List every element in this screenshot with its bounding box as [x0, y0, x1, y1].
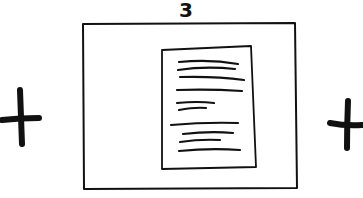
text-lines: [171, 61, 244, 151]
plus-icon[interactable]: [330, 101, 362, 148]
wireframe-sketch: [0, 0, 363, 198]
plus-icon[interactable]: [2, 90, 39, 144]
document-page: [162, 46, 256, 169]
